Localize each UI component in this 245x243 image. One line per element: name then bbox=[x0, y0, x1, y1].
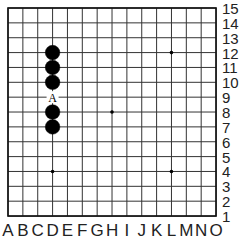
row-label: 3 bbox=[222, 179, 230, 194]
column-label: N bbox=[195, 222, 207, 239]
row-label: 5 bbox=[222, 149, 230, 164]
row-label: 7 bbox=[222, 119, 230, 134]
row-label: 1 bbox=[222, 209, 230, 224]
row-label: 11 bbox=[222, 60, 238, 75]
row-label: 10 bbox=[222, 75, 239, 90]
marker-label[interactable]: A bbox=[48, 91, 57, 105]
column-label: H bbox=[106, 222, 118, 239]
column-label: A bbox=[2, 222, 13, 239]
column-label: G bbox=[91, 222, 104, 239]
row-label: 13 bbox=[222, 30, 239, 45]
star-point-icon bbox=[51, 170, 55, 174]
black-stone-icon[interactable] bbox=[45, 60, 60, 75]
column-label: L bbox=[167, 222, 176, 239]
column-label: O bbox=[209, 222, 222, 239]
row-label: 4 bbox=[222, 164, 230, 179]
star-point-icon bbox=[170, 51, 174, 55]
row-label: 6 bbox=[222, 134, 230, 149]
column-label: M bbox=[179, 222, 193, 239]
column-label: D bbox=[46, 222, 58, 239]
column-label: B bbox=[17, 222, 28, 239]
column-label: F bbox=[77, 222, 87, 239]
row-label: 8 bbox=[222, 105, 230, 120]
star-point-icon bbox=[110, 110, 114, 114]
column-label: J bbox=[137, 222, 146, 239]
black-stone-icon[interactable] bbox=[45, 105, 60, 120]
column-label: E bbox=[62, 222, 73, 239]
row-label: 9 bbox=[222, 90, 230, 105]
row-label: 14 bbox=[222, 15, 239, 30]
row-label: 15 bbox=[222, 1, 239, 16]
black-stone-icon[interactable] bbox=[45, 45, 60, 60]
column-label: C bbox=[32, 222, 44, 239]
column-label: I bbox=[125, 222, 130, 239]
row-label: 12 bbox=[222, 45, 239, 60]
black-stone-icon[interactable] bbox=[45, 75, 60, 90]
row-label: 2 bbox=[222, 194, 230, 209]
go-board[interactable]: A bbox=[0, 0, 245, 243]
column-label: K bbox=[151, 222, 162, 239]
black-stone-icon[interactable] bbox=[45, 120, 60, 135]
star-point-icon bbox=[170, 170, 174, 174]
